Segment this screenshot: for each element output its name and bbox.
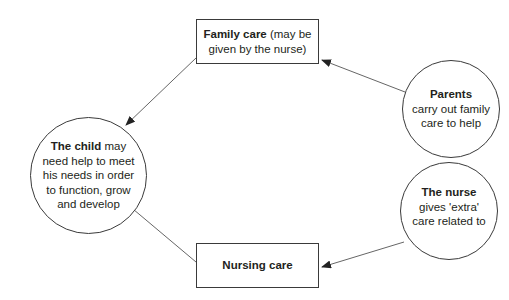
nurse-text: gives 'extra' care related to bbox=[407, 200, 491, 229]
node-parents: Parents carry out family care to help bbox=[402, 60, 500, 158]
arrow-nursing-care-to-child bbox=[127, 204, 196, 262]
family-care-title: Family care bbox=[203, 28, 266, 40]
node-family-care: Family care (may be given by the nurse) bbox=[196, 19, 319, 64]
parents-text: carry out family care to help bbox=[407, 102, 495, 131]
node-child: The child may need help to meet his need… bbox=[30, 117, 147, 234]
parents-title: Parents bbox=[430, 87, 472, 102]
node-nursing-care: Nursing care bbox=[196, 243, 319, 288]
nursing-care-title: Nursing care bbox=[222, 258, 292, 273]
nurse-title: The nurse bbox=[422, 185, 477, 200]
arrow-nurse-to-nursing-care bbox=[322, 242, 404, 267]
arrow-family-care-to-child bbox=[126, 58, 196, 125]
arrow-parents-to-family-care bbox=[322, 60, 405, 92]
child-title: The child bbox=[51, 140, 101, 152]
node-nurse: The nurse gives 'extra' care related to bbox=[400, 162, 498, 260]
